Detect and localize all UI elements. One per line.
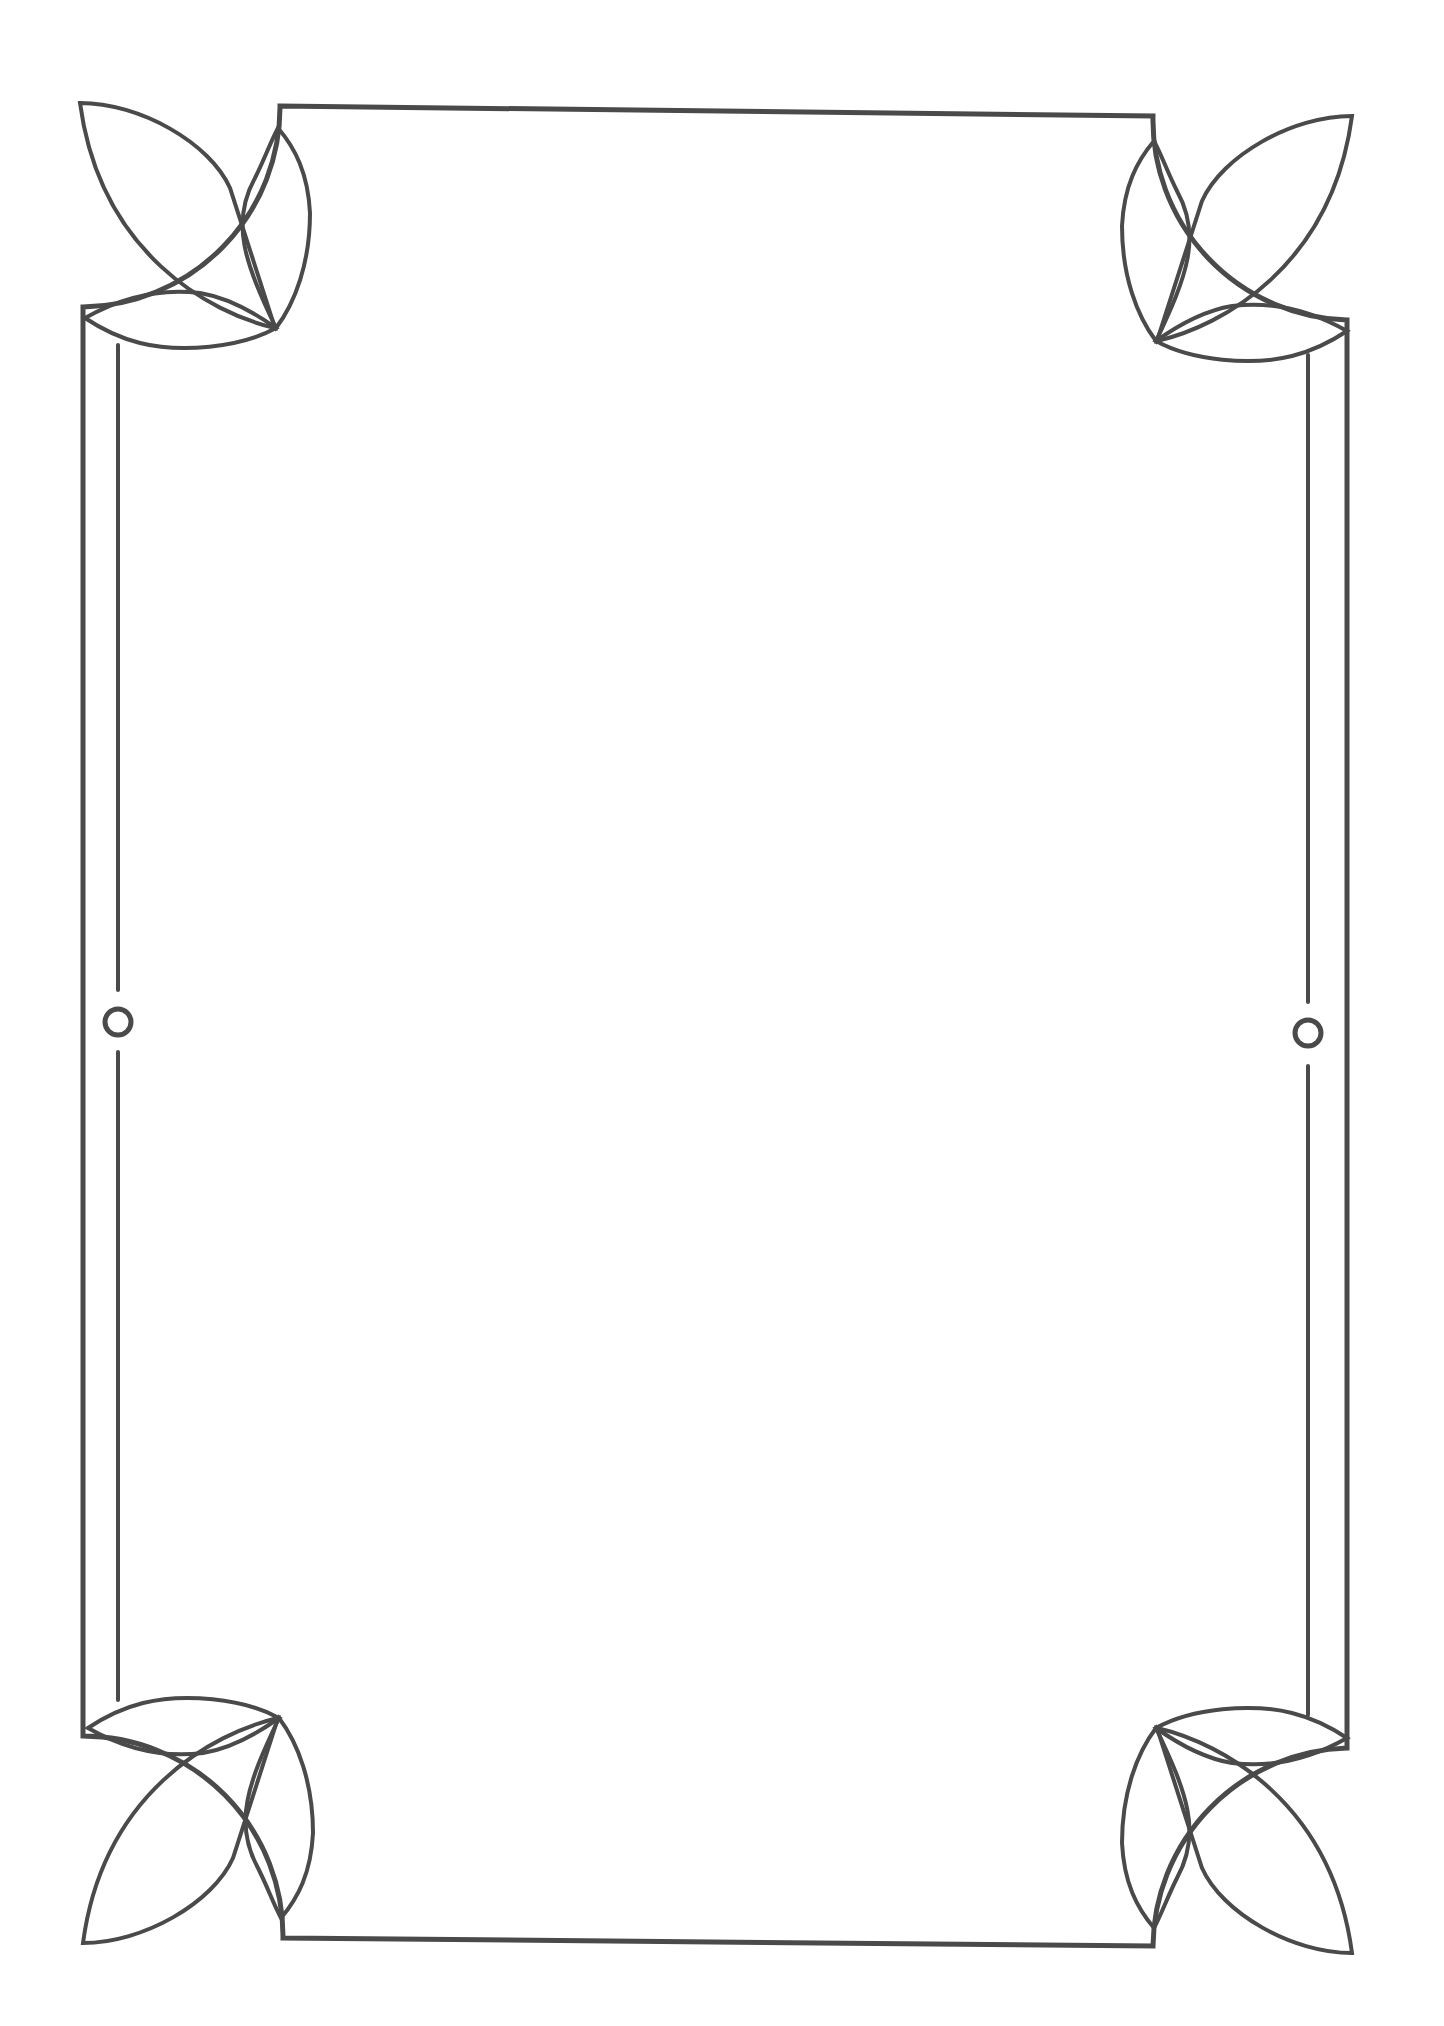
left-circle-ornament <box>105 1009 131 1035</box>
right-circle-ornament <box>1295 1020 1321 1046</box>
page-content <box>140 340 1290 1690</box>
